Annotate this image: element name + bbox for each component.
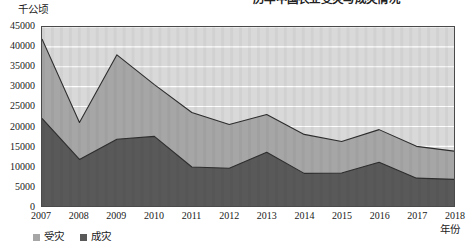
- x-axis-tick-labels: 2007200820092010201120122013201420152016…: [41, 209, 455, 223]
- y-axis-tick-label: 20000: [10, 122, 35, 132]
- x-axis-tick-label: 2017: [407, 209, 427, 222]
- y-axis-tick-label: 25000: [10, 101, 35, 111]
- x-axis-tick-label: 2010: [144, 209, 164, 222]
- legend-swatch-icon: [33, 234, 40, 241]
- legend-swatch-icon: [80, 234, 87, 241]
- chart-legend: 受灾成灾: [33, 231, 111, 243]
- legend-entry-1[interactable]: 成灾: [80, 231, 111, 243]
- chart-svg: [42, 27, 454, 206]
- y-axis-tick-label: 45000: [10, 21, 35, 31]
- x-axis-title: 年份: [440, 223, 460, 236]
- clipped-caption-strip: 历年中国农业受灾与成灾情况: [0, 0, 466, 7]
- y-axis-tick-label: 40000: [10, 41, 35, 51]
- legend-entry-0[interactable]: 受灾: [33, 231, 64, 243]
- y-axis-tick-label: 30000: [10, 81, 35, 91]
- y-axis-tick-labels: 0500010000150002000025000300003500040000…: [0, 26, 38, 207]
- x-axis-tick-label: 2014: [294, 209, 314, 222]
- scan-texture-overlay: [42, 27, 454, 206]
- y-axis-tick-label: 35000: [10, 61, 35, 71]
- x-axis-tick-label: 2008: [69, 209, 89, 222]
- x-axis-tick-label: 2007: [31, 209, 51, 222]
- x-axis-tick-label: 2013: [257, 209, 277, 222]
- x-axis-tick-label: 2015: [332, 209, 352, 222]
- clipped-caption-text: 历年中国农业受灾与成灾情况: [253, 0, 400, 6]
- x-axis-tick-label: 2016: [370, 209, 390, 222]
- chart-plot-area: [41, 26, 455, 207]
- x-axis-tick-label: 2009: [106, 209, 126, 222]
- legend-label: 成灾: [91, 231, 111, 243]
- y-axis-tick-label: 15000: [10, 142, 35, 152]
- x-axis-tick-label: 2011: [182, 209, 202, 222]
- y-axis-tick-label: 10000: [10, 162, 35, 172]
- legend-label: 受灾: [44, 231, 64, 243]
- y-axis-tick-label: 5000: [15, 182, 35, 192]
- y-axis-unit-label: 千公顷: [18, 3, 48, 16]
- x-axis-tick-label: 2018: [445, 209, 465, 222]
- x-axis-tick-label: 2012: [219, 209, 239, 222]
